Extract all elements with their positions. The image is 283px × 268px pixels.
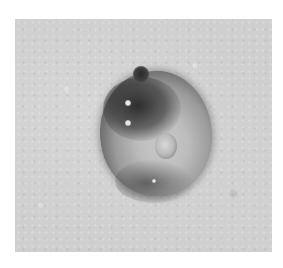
cell-dark-region-top	[103, 77, 181, 141]
cell-protrusion	[133, 66, 149, 82]
micrograph-photo	[15, 19, 272, 252]
bright-granule	[125, 100, 131, 106]
bright-granule	[125, 120, 131, 126]
bright-granule	[152, 179, 156, 183]
cell-nucleus	[155, 133, 177, 159]
